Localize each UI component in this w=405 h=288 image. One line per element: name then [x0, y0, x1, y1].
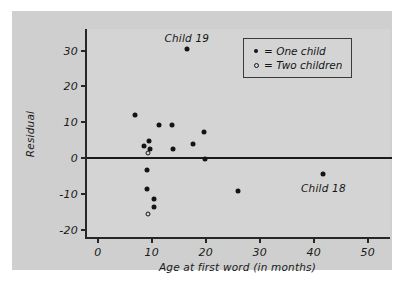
y-tick-label: 0 [71, 152, 78, 165]
zero-reference-line [87, 157, 392, 159]
x-tick-label: 40 [306, 246, 321, 259]
filled-dot-icon [251, 49, 261, 53]
chart-panel: 3020100-10-20 01020304050 Child 19Child … [12, 11, 392, 270]
x-tick-label: 0 [94, 246, 101, 259]
data-point [145, 168, 150, 173]
data-point [202, 157, 207, 162]
data-point [235, 188, 240, 193]
annotation-label: Child 19 [164, 32, 209, 44]
x-axis-title: Age at first word (in months) [85, 261, 390, 273]
figure: 3020100-10-20 01020304050 Child 19Child … [0, 0, 405, 288]
data-point [201, 130, 206, 135]
legend-item-two-children: = Two children [251, 58, 342, 72]
data-point [151, 196, 156, 201]
legend-item-one-child: = One child [251, 44, 342, 58]
y-tick-label: 10 [63, 116, 78, 129]
legend-label-one-child: = One child [264, 45, 326, 57]
y-tick-label: -20 [59, 224, 78, 237]
data-point [144, 186, 149, 191]
y-axis-title: Residual [24, 111, 36, 157]
open-circle-icon [251, 63, 261, 68]
data-point [146, 211, 151, 216]
data-point [132, 113, 137, 118]
data-point [190, 141, 195, 146]
x-tick [97, 237, 99, 243]
y-tick-label: 30 [63, 44, 78, 57]
y-tick-label: 20 [63, 80, 78, 93]
x-tick-label: 10 [144, 246, 159, 259]
data-point [147, 139, 152, 144]
legend: = One child = Two children [243, 38, 352, 78]
data-point [170, 123, 175, 128]
y-tick-label: -10 [59, 188, 78, 201]
data-point [170, 146, 175, 151]
y-tick [81, 157, 87, 159]
legend-label-two-children: = Two children [264, 59, 342, 71]
x-tick-label: 30 [252, 246, 267, 259]
data-point [321, 172, 326, 177]
y-tick [81, 229, 87, 231]
data-point [146, 151, 151, 156]
data-point [142, 144, 147, 149]
data-point [184, 46, 189, 51]
x-tick [151, 237, 153, 243]
x-tick [259, 237, 261, 243]
x-tick [367, 237, 369, 243]
y-tick [81, 121, 87, 123]
annotation-label: Child 18 [301, 182, 346, 194]
x-tick-label: 50 [360, 246, 375, 259]
y-tick [81, 193, 87, 195]
x-tick-label: 20 [198, 246, 213, 259]
x-tick [205, 237, 207, 243]
data-point [152, 204, 157, 209]
x-tick [313, 237, 315, 243]
data-point [156, 123, 161, 128]
y-tick [81, 50, 87, 52]
y-tick [81, 85, 87, 87]
